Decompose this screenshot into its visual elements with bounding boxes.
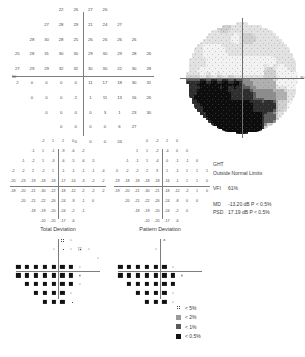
grayscale-stipple — [221, 62, 222, 63]
grayscale-stipple — [240, 37, 241, 38]
grayscale-stipple — [201, 59, 202, 60]
grayscale-stipple — [279, 87, 280, 88]
deviation-symbol — [162, 273, 166, 277]
grayscale-stipple — [260, 118, 261, 119]
grayscale-stipple — [193, 85, 194, 86]
grayscale-stipple — [265, 62, 266, 63]
field-point: 0 — [196, 199, 198, 203]
grayscale-stipple — [235, 59, 236, 60]
grayscale-stipple — [218, 99, 219, 100]
grayscale-stipple — [226, 124, 227, 125]
grayscale-stipple — [201, 54, 202, 55]
grayscale-stipple — [251, 93, 252, 94]
field-point: 30 — [132, 81, 137, 85]
grayscale-stipple — [243, 73, 244, 74]
grayscale-stipple — [235, 121, 236, 122]
field-point: -21 — [134, 189, 139, 193]
field-point: -18 — [134, 209, 139, 213]
psd-label: PSD — [213, 208, 228, 217]
legend-symbol-p05 — [176, 334, 181, 339]
td-numeric-vertical-axis — [58, 149, 59, 219]
legend-symbol-p5 — [176, 305, 181, 310]
field-point: -20 — [154, 219, 159, 223]
grayscale-stipple — [237, 51, 238, 52]
grayscale-stipple — [282, 68, 283, 69]
grayscale-stipple — [193, 57, 194, 58]
grayscale-stipple — [207, 104, 208, 105]
grayscale-stipple — [271, 107, 272, 108]
grayscale-stipple — [254, 51, 255, 52]
deviation-symbol — [71, 240, 72, 241]
grayscale-stipple — [274, 115, 275, 116]
grayscale-stipple — [274, 87, 275, 88]
grayscale-stipple — [257, 71, 258, 72]
grayscale-stipple — [229, 127, 230, 128]
legend-label: < 2% — [185, 314, 197, 320]
grayscale-stipple — [288, 51, 289, 52]
grayscale-stipple — [279, 104, 280, 105]
grayscale-tick-right: 30 — [300, 75, 304, 80]
grayscale-stipple — [260, 57, 261, 58]
grayscale-stipple — [257, 31, 258, 32]
field-point: 0 — [186, 149, 188, 153]
grayscale-stipple — [254, 107, 255, 108]
deviation-symbol — [171, 282, 175, 286]
field-point: 2 — [16, 81, 18, 85]
pattern-deviation-plot — [116, 238, 204, 300]
grayscale-stipple — [246, 37, 247, 38]
grayscale-stipple — [265, 68, 266, 69]
field-point: 0 — [89, 140, 91, 144]
md-row: MD-13.20 dB P < 0.5% — [213, 200, 305, 209]
grayscale-stipple — [237, 101, 238, 102]
grayscale-stipple — [201, 110, 202, 111]
field-point: -1 — [135, 159, 138, 163]
grayscale-stipple — [190, 82, 191, 83]
deviation-symbol — [88, 248, 89, 249]
field-point: -6 — [71, 219, 74, 223]
field-point: 28 — [30, 37, 35, 41]
field-point: 0 — [60, 81, 62, 85]
grayscale-stipple — [204, 113, 205, 114]
deviation-symbol — [145, 282, 149, 286]
grayscale-stipple — [274, 65, 275, 66]
grayscale-stipple — [254, 90, 255, 91]
grayscale-stipple — [240, 110, 241, 111]
grayscale-stipple — [240, 43, 241, 44]
grayscale-stipple — [260, 96, 261, 97]
deviation-symbol — [52, 291, 56, 295]
grayscale-stipple — [223, 104, 224, 105]
grayscale-stipple — [249, 29, 250, 30]
grayscale-stipple — [263, 76, 264, 77]
field-point: -1 — [175, 179, 178, 183]
field-point: 1 — [196, 169, 198, 173]
grayscale-stipple — [254, 62, 255, 63]
grayscale-stipple — [226, 51, 227, 52]
grayscale-stipple — [291, 87, 292, 88]
grayscale-stipple — [265, 90, 266, 91]
grayscale-stipple — [260, 90, 261, 91]
grayscale-stipple — [265, 107, 266, 108]
probability-symbol-legend: < 5%< 2%< 1%< 0.5% — [176, 303, 201, 341]
field-point: -12 — [174, 189, 179, 193]
grayscale-stipple — [229, 54, 230, 55]
field-point: 31 — [44, 52, 49, 56]
grayscale-stipple — [277, 90, 278, 91]
grayscale-stipple — [257, 26, 258, 27]
grayscale-stipple — [293, 90, 294, 91]
grayscale-stipple — [195, 59, 196, 60]
grayscale-stipple — [201, 48, 202, 49]
grayscale-stipple — [288, 107, 289, 108]
grayscale-stipple — [215, 79, 216, 80]
grayscale-stipple — [271, 85, 272, 86]
grayscale-stipple — [288, 96, 289, 97]
grayscale-stipple — [240, 87, 241, 88]
grayscale-stipple — [226, 129, 227, 130]
grayscale-stipple — [282, 107, 283, 108]
grayscale-stipple — [209, 57, 210, 58]
grayscale-stipple — [288, 85, 289, 86]
field-point: 0 — [116, 169, 118, 173]
psd-row: PSD17.19 dB P < 0.5% — [213, 208, 305, 217]
grayscale-stipple — [263, 43, 264, 44]
grayscale-stipple — [198, 96, 199, 97]
grayscale-stipple — [229, 82, 230, 83]
